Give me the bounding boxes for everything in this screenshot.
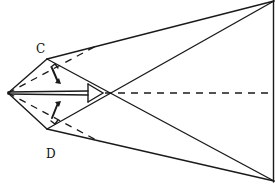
line-c-top-right	[47, 1, 274, 59]
line-c-bottom-right	[47, 59, 274, 181]
small-arrow-d	[52, 103, 58, 118]
small-arrow-c	[52, 68, 58, 82]
dashed-line-lower	[8, 93, 100, 142]
line-d-bottom-right	[47, 129, 274, 181]
line-a-d	[8, 93, 47, 129]
line-a-c	[8, 59, 47, 93]
label-d: D	[46, 147, 56, 161]
arrow-shaft-bottom	[8, 94, 88, 95]
geometry-diagram: C D	[0, 0, 275, 188]
arrow-shaft-top	[8, 91, 88, 92]
line-d-top-right	[47, 1, 274, 129]
label-c: C	[36, 42, 45, 56]
